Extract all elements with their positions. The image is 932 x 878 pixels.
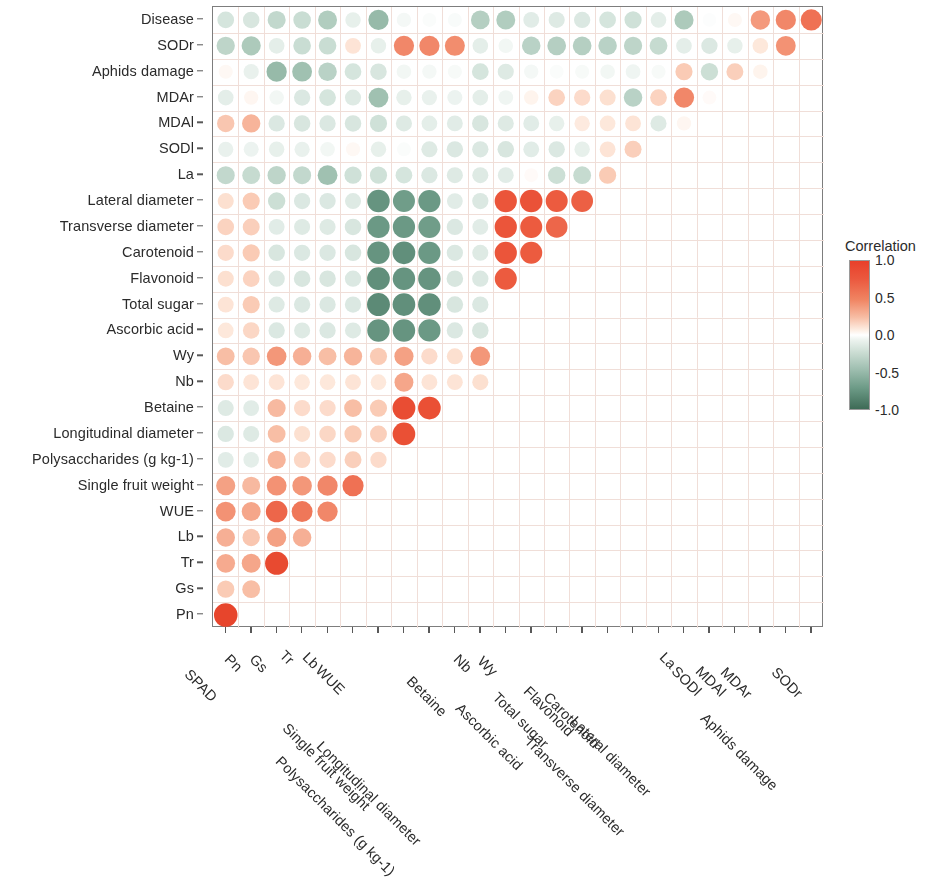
y-axis-tick — [197, 277, 203, 278]
y-axis-label: Longitudinal diameter — [53, 425, 194, 441]
y-axis-tick — [197, 199, 203, 200]
y-axis-tick — [197, 484, 203, 485]
y-axis-tick — [197, 122, 203, 123]
y-axis-label: Pn — [176, 606, 194, 622]
matrix-cells — [213, 7, 824, 628]
legend-tick-label: 1.0 — [875, 252, 894, 268]
legend: Correlation 1.00.50.0-0.5-1.0 — [845, 238, 932, 423]
x-axis-tick — [683, 627, 684, 633]
y-axis-tick — [197, 510, 203, 511]
y-axis-label: MDAl — [158, 114, 194, 130]
x-axis-tick — [810, 627, 811, 633]
x-axis-label: SPAD — [182, 666, 221, 705]
y-axis-label: Tr — [181, 554, 194, 570]
y-axis-label: SODr — [157, 37, 194, 53]
x-axis-tick — [708, 627, 709, 633]
y-axis-label: Single fruit weight — [78, 477, 194, 493]
x-axis-label: Pn — [222, 651, 246, 675]
x-axis-tick — [352, 627, 353, 633]
y-axis-label: Gs — [175, 580, 194, 596]
y-axis-label: Ascorbic acid — [106, 321, 194, 337]
x-axis-label: Longitudinal diameter — [313, 738, 424, 849]
y-axis-tick — [197, 536, 203, 537]
y-axis-tick — [197, 173, 203, 174]
x-axis-label: Wy — [475, 653, 501, 679]
y-axis-tick — [197, 587, 203, 588]
x-axis-tick — [785, 627, 786, 633]
y-axis-tick — [197, 355, 203, 356]
correlation-matrix-plot — [212, 6, 823, 627]
legend-tick-label: 0.0 — [875, 327, 894, 343]
x-axis-tick — [327, 627, 328, 633]
legend-tick-label: -1.0 — [875, 402, 899, 418]
y-axis-tick — [197, 329, 203, 330]
y-axis-tick — [197, 18, 203, 19]
y-axis-label: MDAr — [157, 89, 194, 105]
x-axis-tick — [759, 627, 760, 633]
x-axis-tick — [632, 627, 633, 633]
y-axis-label: Carotenoid — [122, 244, 194, 260]
legend-tick-label: 0.5 — [875, 290, 894, 306]
y-axis-tick — [197, 406, 203, 407]
x-axis: SPADPnGsTrLbWUESingle fruit weightPolysa… — [212, 627, 932, 779]
x-axis-tick — [607, 627, 608, 633]
y-axis-label: Transverse diameter — [60, 218, 194, 234]
y-axis-label: Betaine — [144, 399, 194, 415]
y-axis-label: Polysaccharides (g kg-1) — [32, 451, 194, 467]
x-axis-label: Tr — [277, 647, 298, 668]
y-axis-label: Aphids damage — [92, 63, 194, 79]
y-axis-label: La — [178, 166, 194, 182]
x-axis-tick — [377, 627, 378, 633]
x-axis-tick — [276, 627, 277, 633]
x-axis-tick — [556, 627, 557, 633]
x-axis-tick — [734, 627, 735, 633]
x-axis-tick — [530, 627, 531, 633]
x-axis-tick — [454, 627, 455, 633]
y-axis-tick — [197, 96, 203, 97]
x-axis-label: SODr — [769, 664, 806, 701]
x-axis-label: WUE — [313, 662, 348, 697]
x-axis-tick — [428, 627, 429, 633]
y-axis-label: WUE — [160, 503, 194, 519]
legend-colorbar — [849, 260, 870, 410]
x-axis-label: Gs — [247, 651, 272, 676]
y-axis-label: Lb — [178, 528, 194, 544]
y-axis: DiseaseSODrAphids damageMDArMDAlSODlLaLa… — [0, 6, 203, 627]
y-axis-tick — [197, 432, 203, 433]
y-axis-label: Flavonoid — [130, 270, 194, 286]
x-axis-tick — [505, 627, 506, 633]
x-axis-tick — [658, 627, 659, 633]
x-axis-tick — [479, 627, 480, 633]
x-axis-tick — [301, 627, 302, 633]
y-axis-label: Wy — [173, 347, 194, 363]
y-axis-tick — [197, 70, 203, 71]
x-axis-tick — [225, 627, 226, 633]
legend-tick-label: -0.5 — [875, 365, 899, 381]
y-axis-tick — [197, 148, 203, 149]
y-axis-tick — [197, 380, 203, 381]
x-axis-tick — [250, 627, 251, 633]
y-axis-tick — [197, 225, 203, 226]
x-axis-label: Aphids damage — [697, 710, 780, 793]
y-axis-tick — [197, 303, 203, 304]
y-axis-label: Nb — [175, 373, 194, 389]
y-axis-tick — [197, 251, 203, 252]
x-axis-label: Betaine — [403, 673, 450, 720]
y-axis-label: Lateral diameter — [88, 192, 194, 208]
y-axis-label: Disease — [141, 11, 194, 27]
y-axis-tick — [197, 458, 203, 459]
x-axis-tick — [403, 627, 404, 633]
y-axis-tick — [197, 562, 203, 563]
x-axis-tick — [581, 627, 582, 633]
y-axis-label: Total sugar — [122, 296, 194, 312]
x-axis-label: Nb — [451, 651, 476, 676]
y-axis-tick — [197, 44, 203, 45]
y-axis-tick — [197, 613, 203, 614]
y-axis-label: SODl — [159, 140, 194, 156]
